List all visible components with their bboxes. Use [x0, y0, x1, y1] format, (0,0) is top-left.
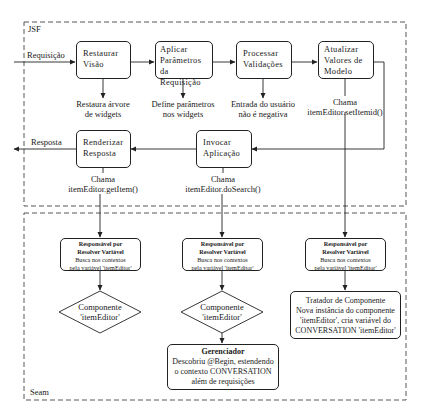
phase-title: Aplicar: [160, 44, 188, 54]
note-update: ChamaitemEditor.setItemid(): [300, 97, 390, 117]
phase-title: Atualizar: [324, 44, 358, 54]
note-validate: Entrada do usuárionão é negativa: [220, 99, 306, 119]
phase-title: Resposta: [83, 148, 116, 158]
component-label-2: Componente'itemEditor': [182, 302, 262, 322]
phase-title: Restaurar: [83, 48, 118, 58]
phase-apply-request-values: AplicarParâmetros daRequisição: [155, 41, 213, 79]
phase-title: Valores de: [324, 55, 363, 65]
response-label: Resposta: [31, 137, 62, 147]
phase-title: Aplicação: [203, 148, 240, 158]
manager-box: GerenciadorDescobriu @Begin, estendendoo…: [167, 344, 279, 390]
phase-restore-view: RestaurarVisão: [76, 41, 131, 79]
phase-title: Processar: [243, 48, 278, 58]
component-label-1: Componente'itemEditor': [60, 302, 140, 322]
jsf-frame-label: JSF: [28, 24, 41, 34]
phase-title: Modelo: [324, 66, 352, 76]
phase-title: Validações: [243, 59, 283, 69]
note-apply: Define parâmetrosnos widgets: [140, 99, 226, 119]
note-invoke: ChamaitemEditor.doSearch(): [178, 174, 268, 194]
phase-title: Invocar: [203, 137, 231, 147]
phase-title: Visão: [83, 59, 104, 69]
variable-resolver-1: Responsável porResolver VariávelBusca no…: [60, 238, 141, 271]
phase-title: Requisição: [160, 77, 201, 87]
note-render: ChamaitemEditor.getItem(): [56, 174, 150, 194]
phase-update-model-values: AtualizarValores deModelo: [318, 41, 374, 79]
note-restore: Restaura árvorede widgets: [58, 99, 148, 119]
phase-process-validations: ProcessarValidações: [236, 41, 292, 79]
phase-title: Renderizar: [83, 137, 123, 147]
phase-render-response: RenderizarResposta: [76, 130, 131, 168]
variable-resolver-3: Responsável porResolver VariávelBusca no…: [305, 238, 386, 271]
seam-frame-label: Seam: [30, 387, 49, 397]
phase-title: Parâmetros da: [160, 55, 201, 76]
phase-invoke-application: InvocarAplicação: [196, 130, 252, 168]
request-label: Requisição: [27, 50, 65, 60]
component-handler-box: Tratador de ComponenteNova instância do …: [290, 291, 401, 339]
variable-resolver-2: Responsável porResolver VariávelBusca no…: [182, 238, 263, 271]
